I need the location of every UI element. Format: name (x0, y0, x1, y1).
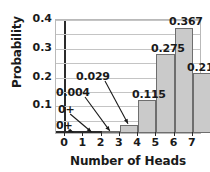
x-tick-mark (101, 132, 102, 136)
annotation-label: 0+ (58, 103, 74, 116)
bar (102, 131, 120, 133)
x-tick-mark (119, 132, 120, 136)
x-tick-label: 0 (56, 136, 72, 149)
value-label: 0.210 (187, 61, 210, 74)
x-axis-title: Number of Heads (52, 154, 204, 168)
x-tick-mark (155, 132, 156, 136)
x-tick-label: 4 (129, 136, 145, 149)
y-axis-ticks: 0.10.20.30.4 (22, 19, 52, 134)
x-tick-label: 6 (166, 136, 182, 149)
x-tick-mark (64, 132, 65, 136)
value-label: 0.115 (132, 88, 166, 101)
bar (193, 73, 210, 133)
value-label: 0.275 (151, 42, 185, 55)
x-tick-mark (82, 132, 83, 136)
x-tick-mark (137, 132, 138, 136)
x-tick-label: 7 (184, 136, 200, 149)
x-tick-label: 1 (74, 136, 90, 149)
y-tick-label: 0.1 (24, 98, 52, 111)
annotation-label: 0.004 (56, 86, 90, 99)
x-tick-label: 2 (93, 136, 109, 149)
x-tick-mark (192, 132, 193, 136)
x-axis-ticks: 01234567 (55, 136, 201, 151)
y-tick-label: 0.4 (24, 12, 52, 25)
x-tick-label: 5 (147, 136, 163, 149)
vertical-axis-line (64, 20, 66, 133)
annotation-label: 0.029 (76, 70, 110, 83)
bar (138, 100, 156, 133)
annotation-label: 0+ (56, 119, 72, 132)
value-label: 0.367 (169, 15, 203, 28)
x-tick-mark (174, 132, 175, 136)
x-tick-label: 3 (111, 136, 127, 149)
bar (120, 125, 138, 133)
probability-histogram: Probability 0.10.20.30.4 01234567 Number… (0, 0, 210, 172)
y-tick-label: 0.2 (24, 70, 52, 83)
y-tick-label: 0.3 (24, 41, 52, 54)
